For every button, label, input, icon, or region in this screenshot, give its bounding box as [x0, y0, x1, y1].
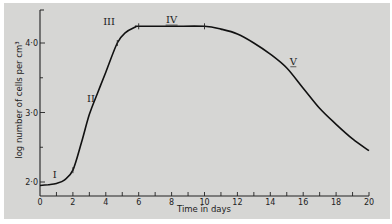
x-tick-label: 12	[232, 198, 242, 207]
x-tick-label: 8	[169, 198, 174, 207]
phase-label: I	[53, 169, 57, 180]
x-tick-label: 20	[364, 198, 374, 207]
phase-label: IV	[166, 14, 178, 25]
x-tick-label: 14	[265, 198, 275, 207]
x-tick-label: 4	[103, 198, 108, 207]
ticks: 024681012141618202·03·04·0	[25, 39, 374, 207]
y-tick-label: 4·0	[25, 39, 38, 48]
y-tick-label: 3·0	[25, 109, 38, 118]
phase-label: III	[103, 16, 115, 27]
y-axis-title: log number of cells per cm³	[14, 41, 24, 158]
x-axis-title: Time in days	[176, 204, 232, 214]
x-tick-label: 2	[70, 198, 75, 207]
x-tick-label: 6	[136, 198, 141, 207]
growth-curve-line	[40, 26, 369, 185]
growth-curve-chart: 024681012141618202·03·04·0 IIIIIIIVV Tim…	[0, 0, 392, 224]
x-tick-label: 16	[298, 198, 308, 207]
phase-label: II	[87, 93, 95, 104]
y-tick-label: 2·0	[25, 178, 38, 187]
phase-labels: IIIIIIIVV	[53, 14, 298, 180]
x-tick-label: 0	[37, 198, 42, 207]
x-tick-label: 18	[331, 198, 341, 207]
phase-label: V	[289, 56, 298, 67]
